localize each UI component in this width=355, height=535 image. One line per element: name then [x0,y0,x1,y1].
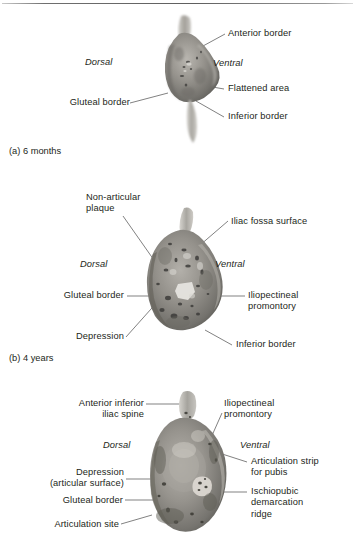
label-gluteal-border-a: Gluteal border [30,97,130,108]
label-gluteal-border-c: Gluteal border [26,495,123,506]
label-dorsal-b: Dorsal [80,259,107,270]
label-iliac-fossa-surface-b: Iliac fossa surface [231,216,307,227]
label-ventral-b: Ventral [215,259,245,270]
label-non-articular-plaque-b: Non-articular plaque [86,192,140,215]
label-articulation-strip-for-pubis-c: Articulation strip for pubis [251,456,319,479]
label-ventral-c: Ventral [240,440,270,451]
panel-a: Gluteal border Dorsal Ventral Anterior b… [0,0,355,172]
label-gluteal-border-b: Gluteal border [27,290,124,301]
label-inferior-border-a: Inferior border [228,111,288,122]
label-dorsal-a: Dorsal [85,57,112,68]
anatomy-figure-page: Gluteal border Dorsal Ventral Anterior b… [0,0,355,535]
label-anterior-inferior-iliac-spine-c: Anterior inferior iliac spine [32,398,144,421]
label-iliopectineal-promontory-c: Iliopectineal promontory [224,398,274,421]
label-ventral-a: Ventral [213,58,243,69]
label-ischiopubic-demarcation-ridge-c: Ischiopubic demarcation ridge [251,486,303,520]
label-iliopectineal-promontory-b: Iliopectineal promontory [248,290,298,313]
label-inferior-border-b: Inferior border [236,339,296,350]
caption-panel-a: (a) 6 months [9,146,61,157]
label-depression-b: Depression [46,331,124,342]
label-articulation-site-c: Articulation site [16,519,119,530]
bone-specimen-a [155,14,235,144]
label-flattened-area-a: Flattened area [228,83,289,94]
label-depression-articular-surface-c: Depression (articular surface) [12,467,124,490]
label-anterior-border-a: Anterior border [228,28,291,39]
label-dorsal-c: Dorsal [103,440,130,451]
bone-specimen-b [140,206,235,351]
caption-panel-b: (b) 4 years [9,353,53,364]
